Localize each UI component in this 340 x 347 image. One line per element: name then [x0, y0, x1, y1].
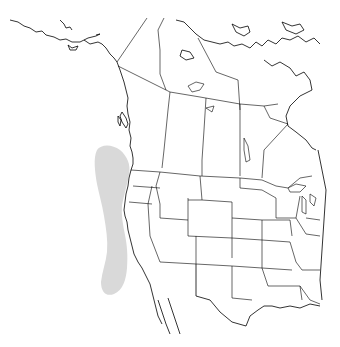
great-slave-lake [188, 82, 204, 92]
bc-alberta-border [162, 92, 170, 168]
alaska-coastline [10, 20, 117, 62]
60th-parallel [170, 92, 278, 106]
alaska-peninsula [60, 20, 72, 30]
lake-michigan [302, 196, 306, 214]
nwt-nunavut-border [198, 38, 240, 110]
manitoba-ontario-border [262, 106, 288, 178]
species-range-area [95, 146, 130, 295]
map-canvas [0, 0, 340, 347]
east-coast [318, 150, 326, 300]
baja-coast [158, 298, 180, 334]
range-map [0, 0, 340, 347]
alaska-canada-border [117, 18, 147, 62]
lake-winnipeg [244, 138, 250, 162]
lake-superior [288, 184, 306, 192]
arctic-island-3 [180, 50, 194, 60]
arctic-island-2 [282, 22, 304, 34]
alberta-sask-border [202, 98, 206, 176]
yukon-nwt-border [158, 18, 166, 90]
lake-huron [310, 194, 316, 206]
arctic-island [232, 24, 250, 36]
lake-athabasca [206, 106, 214, 112]
